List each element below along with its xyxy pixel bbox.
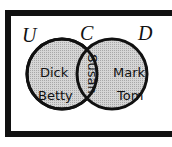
set-d-label: D — [137, 22, 153, 44]
member-mark: Mark — [113, 65, 146, 80]
venn-diagram: U C D Dick Betty Mark Tom Susan — [0, 0, 172, 147]
member-susan: Susan — [85, 54, 100, 93]
universe-label: U — [22, 24, 38, 46]
member-betty: Betty — [38, 88, 73, 103]
member-tom: Tom — [116, 88, 143, 103]
member-dick: Dick — [40, 65, 69, 80]
set-c-label: C — [80, 22, 94, 44]
